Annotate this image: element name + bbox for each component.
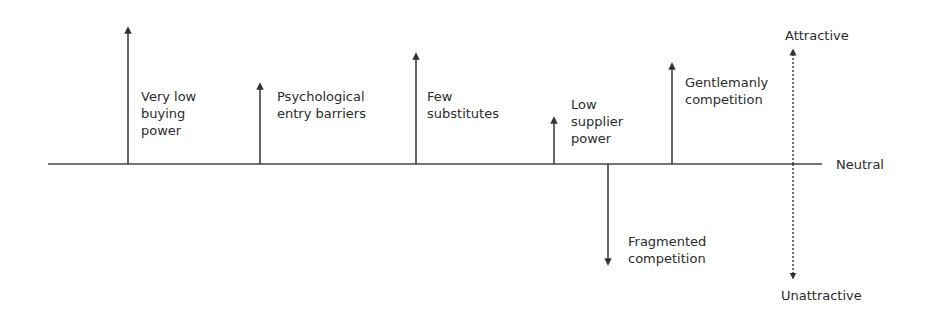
label-neutral: Neutral: [836, 156, 884, 173]
label-psychological-entry-barriers: Psychological entry barriers: [277, 88, 366, 122]
diagram-canvas: [0, 0, 931, 327]
label-few-substitutes: Few substitutes: [427, 88, 499, 122]
label-low-supplier-power: Low supplier power: [571, 96, 623, 147]
label-fragmented-competition: Fragmented competition: [628, 233, 706, 267]
label-attractive: Attractive: [785, 27, 849, 44]
label-very-low-buying-power: Very low buying power: [141, 88, 196, 139]
label-unattractive: Unattractive: [781, 287, 862, 304]
label-gentlemanly-competition: Gentlemanly competition: [685, 74, 768, 108]
